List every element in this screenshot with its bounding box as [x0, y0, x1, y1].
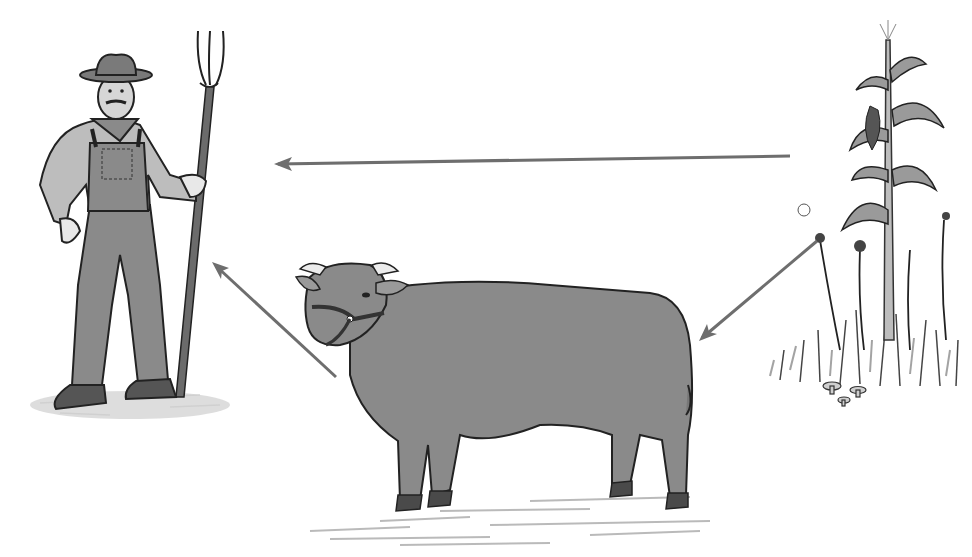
- cow-icon: [290, 255, 720, 550]
- arrow-plants-to-farmer: [278, 156, 790, 164]
- farmer-icon: [20, 25, 250, 435]
- food-chain-diagram: [0, 0, 972, 557]
- arrowhead-farmer-from-plants: [274, 157, 292, 171]
- plants-icon: [760, 20, 972, 410]
